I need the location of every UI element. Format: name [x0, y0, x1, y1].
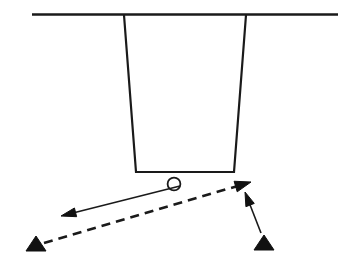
upward-solid-arrow — [245, 192, 261, 233]
funnel-hopper-outline — [124, 15, 246, 172]
funnel-hopper-diagram — [0, 0, 347, 267]
upward-arrow-shaft — [249, 202, 261, 233]
leftward-arrow-shaft — [72, 186, 180, 213]
leftward-solid-arrow — [61, 186, 180, 217]
right-support-triangle — [254, 235, 274, 250]
left-support-triangle — [26, 236, 46, 251]
upward-arrow-head — [245, 192, 254, 207]
leftward-arrow-head — [61, 208, 77, 217]
dashed-arrow-head — [234, 181, 251, 192]
diagram-canvas — [0, 0, 347, 267]
